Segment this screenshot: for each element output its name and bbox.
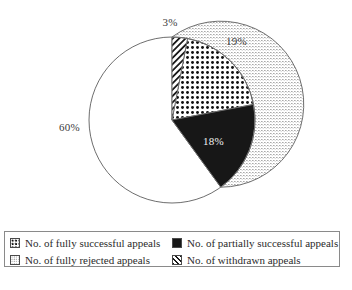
legend-row: No. of fully successful appeals No. of p… (5, 235, 339, 251)
fine-texture-swatch-icon (10, 255, 20, 265)
legend-label-withdrawn: No. of withdrawn appeals (187, 254, 301, 267)
pie-label-withdrawn: 3% (155, 16, 185, 28)
pie-label-fully-successful: 19% (226, 35, 247, 47)
legend-item-withdrawn[interactable]: No. of withdrawn appeals (172, 252, 336, 268)
chart-legend: No. of fully successful appeals No. of p… (4, 231, 340, 267)
legend-label-fully-rejected: No. of fully rejected appeals (25, 254, 150, 267)
legend-label-partially-successful: No. of partially successful appeals (187, 237, 338, 250)
legend-row: No. of fully rejected appeals No. of wit… (5, 252, 339, 268)
legend-label-fully-successful: No. of fully successful appeals (25, 237, 160, 250)
pie-label-partially-successful: 18% (203, 135, 224, 147)
pie-chart-svg (0, 0, 352, 222)
dots-swatch-icon (10, 238, 20, 248)
pie-label-fully-rejected: 60% (59, 121, 80, 133)
legend-item-fully-successful[interactable]: No. of fully successful appeals (5, 235, 172, 251)
pie-chart-plot-area: 3% 19% 18% 60% (0, 0, 352, 222)
diagonal-hatch-swatch-icon (172, 255, 182, 265)
legend-item-partially-successful[interactable]: No. of partially successful appeals (172, 235, 336, 251)
pie-chart-figure: 3% 19% 18% 60% No. of fully successful a… (0, 0, 352, 290)
solid-black-swatch-icon (172, 238, 182, 248)
legend-item-fully-rejected[interactable]: No. of fully rejected appeals (5, 252, 172, 268)
